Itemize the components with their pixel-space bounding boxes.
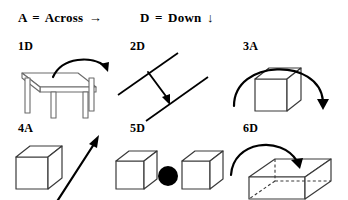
black-dot-icon [158,166,178,186]
puzzle-item-3a: 3A [225,40,337,122]
legend-across-equals: = [30,10,42,25]
legend-down: D = Down ↓ [140,10,214,26]
puzzle-item-6d: 6D [225,122,337,200]
figure-cube-diagonal-arrow [0,133,112,200]
down-arrow-icon: ↓ [205,10,214,25]
figure-wireframe-box-arrow [225,133,337,200]
puzzle-item-5d: 5D [112,122,224,200]
puzzle-item-1d: 1D [0,40,112,122]
legend-down-word: Down [168,10,201,25]
legend-across-key: A [18,10,27,25]
puzzle-item-4a: 4A [0,122,112,200]
right-arrow-icon: → [87,10,102,25]
legend-bar: A = Across → D = Down ↓ [0,0,348,36]
legend-down-equals: = [153,10,165,25]
legend-across: A = Across → [18,10,102,26]
puzzle-item-2d: 2D [112,40,224,122]
legend-across-word: Across [45,10,84,25]
figure-table-curved-arrow [0,51,112,122]
legend-down-key: D [140,10,150,25]
figure-parallel-lines-arrow [112,51,224,122]
figure-two-cubes-dot [112,133,224,200]
figure-cube-arc-arrow [225,51,337,122]
